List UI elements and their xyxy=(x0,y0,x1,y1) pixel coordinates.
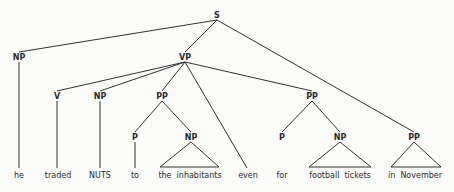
leaf-nuts: NUTS xyxy=(89,171,111,180)
syntax-tree: S NP VP V NP PP PP P NP P NP PP he trade… xyxy=(0,0,454,192)
leaf-for: for xyxy=(277,171,289,180)
leaf-traded: traded xyxy=(45,171,71,180)
node-np-subject: NP xyxy=(13,53,26,62)
node-pp-for: PP xyxy=(306,92,318,101)
leaf-to: to xyxy=(131,171,139,180)
leaf-in-november: in November xyxy=(388,171,443,180)
node-s: S xyxy=(214,11,220,20)
leaf-even: even xyxy=(238,171,258,180)
leaf-he: he xyxy=(14,171,24,180)
node-p-for: P xyxy=(279,133,285,142)
node-pp-in: PP xyxy=(408,133,420,142)
node-pp-to: PP xyxy=(156,92,168,101)
leaf-football-tickets: football tickets xyxy=(309,171,371,180)
node-np-object: NP xyxy=(94,92,107,101)
node-np-for: NP xyxy=(334,133,347,142)
leaf-the-inhabitants: the inhabitants xyxy=(158,171,221,180)
node-p-to: P xyxy=(132,133,138,142)
tree-edges xyxy=(19,20,441,168)
node-np-to: NP xyxy=(185,133,198,142)
node-v: V xyxy=(54,92,61,101)
node-vp: VP xyxy=(179,53,191,62)
